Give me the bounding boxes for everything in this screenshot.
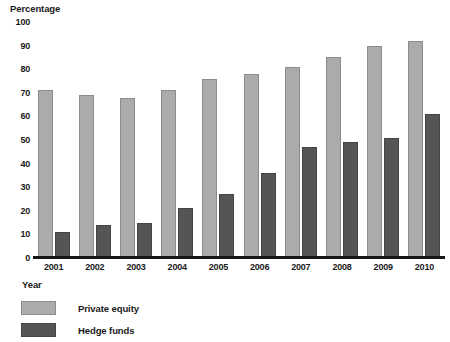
bar: [137, 223, 152, 258]
x-axis-tick-label: 2006: [250, 262, 269, 272]
y-axis-tick-label: 50: [4, 136, 30, 145]
x-axis-tick-labels: 2001200220032004200520062007200820092010: [33, 262, 445, 276]
x-axis-tick-label: 2004: [168, 262, 187, 272]
legend-item-label: Private equity: [78, 303, 139, 314]
y-axis-tick-label: 90: [4, 41, 30, 50]
x-axis-tick-label: 2009: [374, 262, 393, 272]
legend-item: Private equity: [21, 299, 139, 317]
bar: [302, 147, 317, 258]
bar-group: [404, 22, 445, 258]
bar: [96, 225, 111, 258]
x-axis-tick-label: 2002: [85, 262, 104, 272]
x-axis-tick-label: 2008: [332, 262, 351, 272]
bar: [120, 98, 135, 258]
x-axis-tick-label: 2001: [44, 262, 63, 272]
y-axis-tick-label: 20: [4, 206, 30, 215]
y-axis-title: Percentage: [10, 3, 60, 14]
bar: [161, 90, 176, 258]
x-axis-tick-label: 2005: [209, 262, 228, 272]
bar-group: [115, 22, 156, 258]
bar-group: [321, 22, 362, 258]
y-axis-tick-labels: 0102030405060708090100: [0, 22, 30, 258]
bar: [178, 208, 193, 258]
bar-group: [74, 22, 115, 258]
bar: [79, 95, 94, 258]
x-axis-title: Year: [22, 279, 42, 290]
bar: [55, 232, 70, 258]
bar-chart: Percentage 0102030405060708090100 200120…: [0, 0, 450, 342]
bar-group: [157, 22, 198, 258]
y-axis-tick-label: 60: [4, 112, 30, 121]
bar: [202, 79, 217, 258]
bar: [261, 173, 276, 258]
y-axis-tick-label: 40: [4, 159, 30, 168]
bar-group: [33, 22, 74, 258]
legend-item-label: Hedge funds: [78, 325, 134, 336]
plot-area: [33, 22, 445, 258]
y-axis-tick-label: 100: [4, 18, 30, 27]
bar: [367, 46, 382, 258]
private-equity-swatch: [21, 301, 56, 315]
y-axis-tick-label: 0: [4, 254, 30, 263]
y-axis-tick-label: 80: [4, 65, 30, 74]
x-axis-tick-label: 2003: [126, 262, 145, 272]
legend-item: Hedge funds: [21, 321, 139, 339]
y-axis-tick-label: 30: [4, 183, 30, 192]
bar: [244, 74, 259, 258]
x-axis-line: [33, 256, 445, 259]
bar: [326, 57, 341, 258]
bar: [408, 41, 423, 258]
x-axis-tick-label: 2007: [291, 262, 310, 272]
bar: [38, 90, 53, 258]
bar: [219, 194, 234, 258]
y-axis-tick-label: 70: [4, 88, 30, 97]
bar-group: [239, 22, 280, 258]
bar: [285, 67, 300, 258]
bar: [343, 142, 358, 258]
bar: [425, 114, 440, 258]
y-axis-tick-label: 10: [4, 230, 30, 239]
bar-group: [363, 22, 404, 258]
hedge-funds-swatch: [21, 323, 56, 337]
chart-legend: Private equityHedge funds: [21, 299, 139, 342]
bar-group: [280, 22, 321, 258]
bar: [384, 138, 399, 258]
bar-group: [198, 22, 239, 258]
x-axis-tick-label: 2010: [415, 262, 434, 272]
